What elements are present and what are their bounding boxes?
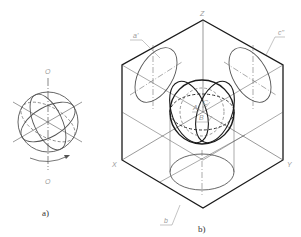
sphere-label-b: B — [199, 114, 204, 121]
axis-y-label: Y — [287, 161, 293, 168]
caption-a: a) — [42, 208, 49, 218]
projection-label-c: c'' — [278, 29, 285, 36]
caption-b: b) — [198, 224, 206, 234]
technical-drawing: O O a) — [0, 0, 301, 237]
projection-label-a: a' — [133, 32, 139, 39]
axis-z-label: Z — [199, 10, 205, 17]
sphere-rotation-figure — [13, 78, 82, 170]
sphere-label-a: A — [192, 104, 198, 111]
axis-top-label: O — [45, 68, 51, 75]
projection-label-b: b — [164, 217, 168, 224]
axis-x-label: X — [111, 161, 117, 168]
isometric-projection-figure — [122, 20, 285, 225]
axis-bottom-label: O — [45, 178, 51, 185]
sphere-label-c: C — [203, 99, 209, 106]
